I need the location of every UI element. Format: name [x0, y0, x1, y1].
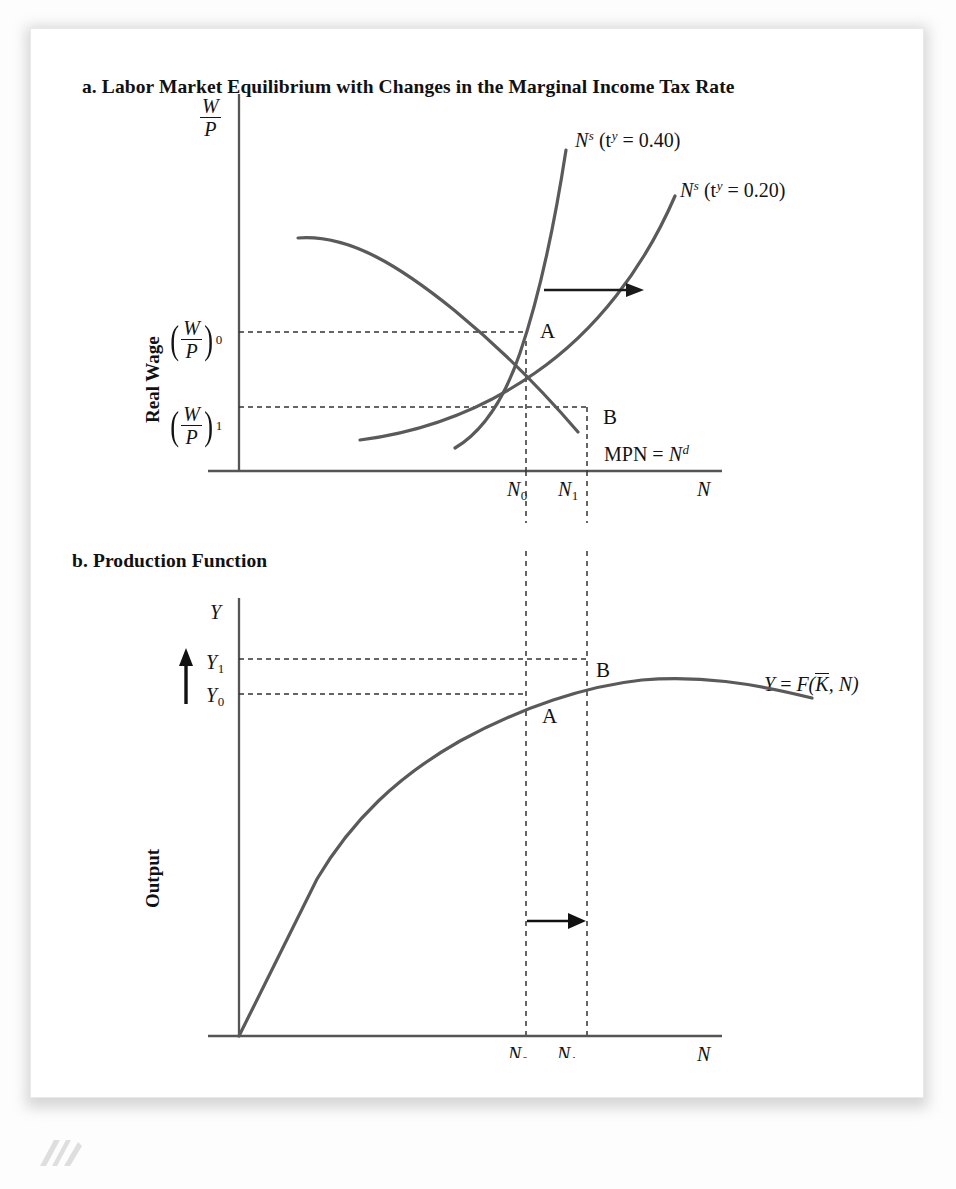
- output-increase-arrow-icon: [179, 648, 193, 704]
- publisher-watermark-icon: [38, 1136, 98, 1170]
- economics-figure: a. Labor Market Equilibrium with Changes…: [30, 28, 922, 1096]
- panel-b-plot: [30, 28, 922, 1096]
- employment-increase-arrow-icon: [527, 913, 586, 929]
- panel-b-xlabel-backing: [380, 1058, 610, 1086]
- production-function-curve: [239, 679, 812, 1036]
